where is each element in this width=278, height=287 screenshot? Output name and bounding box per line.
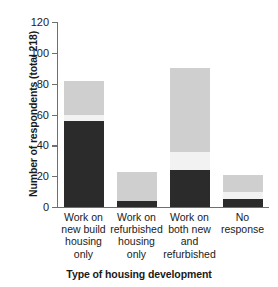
plot-area: 020406080100120 <box>57 22 269 207</box>
bar-1-light-segment <box>64 81 104 115</box>
bar-3-mid-segment <box>170 152 210 171</box>
y-tick-label-100: 100 <box>31 47 49 58</box>
x-category-label-2: Work on refurbished housing only <box>106 211 167 260</box>
bar-4 <box>223 175 263 207</box>
bar-4-mid-segment <box>223 192 263 200</box>
y-tick-label-80: 80 <box>37 78 49 89</box>
x-axis-title: Type of housing development <box>0 268 278 280</box>
y-tick-label-40: 40 <box>37 140 49 151</box>
bar-3-light-segment <box>170 68 210 151</box>
bar-1-dark-segment <box>64 121 104 207</box>
bar-3-dark-segment <box>170 170 210 207</box>
y-tick-label-20: 20 <box>37 171 49 182</box>
y-tick-0 <box>52 207 57 208</box>
bar-4-dark-segment <box>223 199 263 207</box>
x-category-label-3: Work on both new and refurbished <box>159 211 220 260</box>
bar-4-light-segment <box>223 175 263 192</box>
bar-2 <box>117 172 157 207</box>
y-tick-label-0: 0 <box>43 202 49 213</box>
bar-2-dark-segment <box>117 201 157 207</box>
x-axis-line <box>57 207 269 208</box>
y-tick-label-120: 120 <box>31 17 49 28</box>
bar-3 <box>170 68 210 207</box>
bar-chart: Number of respondents (total 218) 020406… <box>0 0 278 287</box>
x-category-label-4: No response <box>212 211 273 235</box>
bar-1 <box>64 81 104 207</box>
bar-2-light-segment <box>117 172 157 201</box>
x-category-label-1: Work on new build housing only <box>53 211 114 260</box>
y-tick-label-60: 60 <box>37 109 49 120</box>
x-axis-category-labels: Work on new build housing onlyWork on re… <box>57 211 269 263</box>
bar-series-group <box>57 22 269 207</box>
